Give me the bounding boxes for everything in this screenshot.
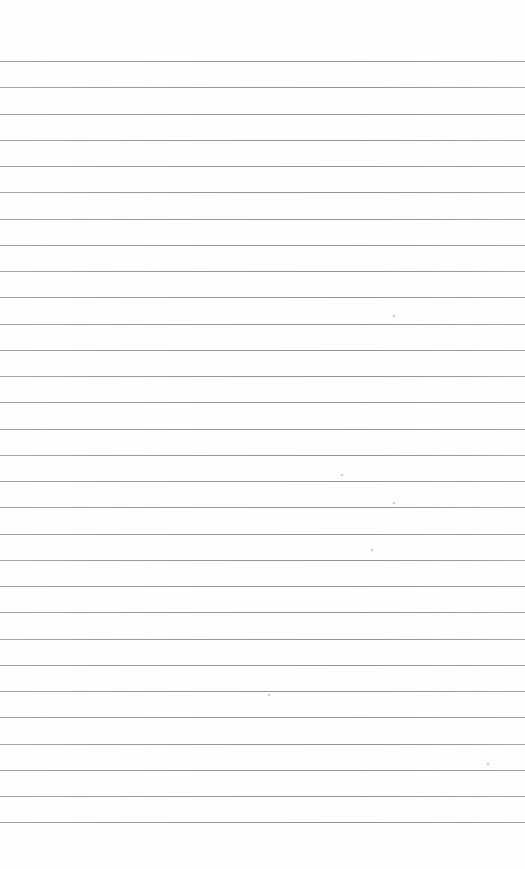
ruled-line	[0, 639, 525, 640]
ruled-line	[0, 429, 525, 430]
ruled-line	[0, 245, 525, 246]
ruled-line	[0, 61, 525, 62]
ruled-line	[0, 586, 525, 587]
ruled-line	[0, 402, 525, 403]
ruled-line	[0, 192, 525, 193]
ruled-line	[0, 271, 525, 272]
ruled-line	[0, 297, 525, 298]
ruled-line	[0, 612, 525, 613]
ruled-line	[0, 140, 525, 141]
ruled-line	[0, 822, 525, 823]
dust-speck	[393, 502, 395, 504]
dust-speck	[393, 315, 395, 317]
dust-speck	[371, 549, 373, 551]
ruled-line	[0, 455, 525, 456]
ruled-line	[0, 560, 525, 561]
dust-speck	[268, 694, 270, 696]
dust-speck	[487, 763, 489, 765]
ruled-line	[0, 770, 525, 771]
lined-paper-sheet	[0, 0, 525, 869]
ruled-line	[0, 507, 525, 508]
ruled-line	[0, 87, 525, 88]
ruled-line	[0, 717, 525, 718]
ruled-line	[0, 534, 525, 535]
ruled-line	[0, 376, 525, 377]
ruled-line	[0, 114, 525, 115]
ruled-line	[0, 219, 525, 220]
ruled-line	[0, 796, 525, 797]
ruled-line	[0, 166, 525, 167]
ruled-line	[0, 350, 525, 351]
ruled-line	[0, 744, 525, 745]
ruled-line	[0, 691, 525, 692]
ruled-line	[0, 665, 525, 666]
ruled-line	[0, 324, 525, 325]
dust-speck	[341, 474, 343, 476]
ruled-line	[0, 481, 525, 482]
